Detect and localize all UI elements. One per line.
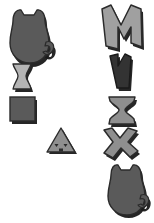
cat-silhouette-shape-right[interactable] xyxy=(101,160,153,220)
cat-silhouette-shape-left[interactable] xyxy=(3,5,59,69)
hourglass-right-body xyxy=(109,97,135,124)
triangle-face-shape[interactable] xyxy=(45,125,81,157)
cat-body-layer xyxy=(10,10,54,63)
shape-panel-canvas xyxy=(0,0,154,223)
cat-right-body-layer xyxy=(108,165,149,215)
letter-m-shape[interactable] xyxy=(98,3,150,56)
letter-m-body xyxy=(102,5,142,49)
triangle-body xyxy=(47,128,75,152)
letter-v-body xyxy=(110,54,131,88)
letter-v-shape[interactable] xyxy=(106,52,140,97)
hourglass-shape-left[interactable] xyxy=(7,61,37,94)
square-body xyxy=(10,97,35,121)
square-shape-left[interactable] xyxy=(6,94,39,126)
triangle-mouth-icon xyxy=(59,149,63,152)
